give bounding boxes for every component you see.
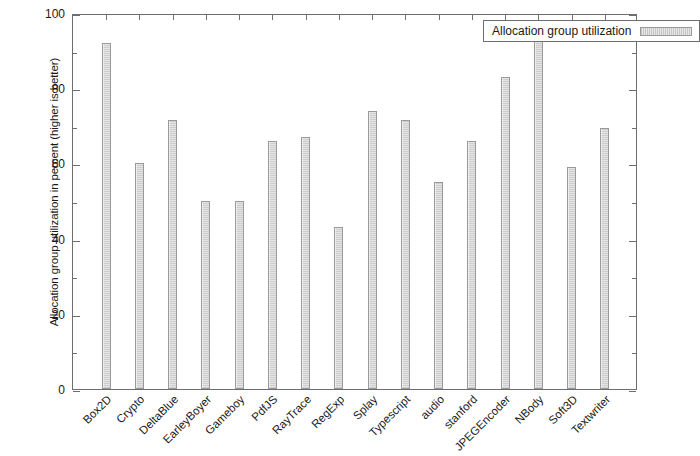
bar bbox=[534, 36, 543, 389]
x-tick-top bbox=[472, 15, 473, 20]
x-tick-top bbox=[405, 15, 406, 20]
y-tick-label: 100 bbox=[5, 7, 65, 21]
x-tick-top bbox=[272, 15, 273, 20]
y-tick-minor-right bbox=[632, 278, 636, 279]
y-tick-label: 80 bbox=[5, 82, 65, 96]
y-tick-major bbox=[73, 90, 80, 91]
y-tick-minor-right bbox=[632, 53, 636, 54]
bar bbox=[467, 141, 476, 389]
y-tick-major bbox=[73, 165, 80, 166]
bar bbox=[301, 137, 310, 389]
x-tick-top bbox=[206, 15, 207, 20]
bar bbox=[102, 43, 111, 389]
legend: Allocation group utilization bbox=[483, 20, 700, 42]
y-tick-minor bbox=[73, 53, 77, 54]
y-tick-major bbox=[73, 15, 80, 16]
bar bbox=[600, 128, 609, 389]
y-tick-minor-right bbox=[632, 203, 636, 204]
legend-swatch-icon bbox=[640, 27, 692, 36]
y-tick-major-right bbox=[629, 241, 636, 242]
y-tick-major bbox=[73, 316, 80, 317]
plot-area: Allocation group utilization bbox=[72, 14, 637, 390]
y-tick-minor-right bbox=[632, 128, 636, 129]
y-tick-minor bbox=[73, 278, 77, 279]
x-tick-top bbox=[339, 15, 340, 20]
bar bbox=[201, 201, 210, 389]
bar bbox=[235, 201, 244, 389]
bar bbox=[401, 120, 410, 389]
bar bbox=[334, 227, 343, 389]
x-tick-top bbox=[173, 15, 174, 20]
x-tick-top bbox=[139, 15, 140, 20]
bar bbox=[368, 111, 377, 389]
bar bbox=[434, 182, 443, 389]
y-tick-minor bbox=[73, 128, 77, 129]
y-tick-major-right bbox=[629, 391, 636, 392]
x-tick-top bbox=[372, 15, 373, 20]
y-tick-minor-right bbox=[632, 353, 636, 354]
y-tick-major-right bbox=[629, 90, 636, 91]
y-tick-label: 60 bbox=[5, 157, 65, 171]
bar bbox=[567, 167, 576, 389]
y-tick-major bbox=[73, 391, 80, 392]
y-tick-major bbox=[73, 241, 80, 242]
x-tick-top bbox=[239, 15, 240, 20]
x-tick-top bbox=[439, 15, 440, 20]
y-tick-major-right bbox=[629, 316, 636, 317]
y-tick-minor bbox=[73, 203, 77, 204]
y-tick-major-right bbox=[629, 165, 636, 166]
x-tick-top bbox=[106, 15, 107, 20]
legend-label: Allocation group utilization bbox=[492, 24, 631, 38]
y-tick-label: 40 bbox=[5, 233, 65, 247]
bar bbox=[268, 141, 277, 389]
y-tick-minor bbox=[73, 353, 77, 354]
y-tick-label: 0 bbox=[5, 383, 65, 397]
x-tick-top bbox=[306, 15, 307, 20]
bar bbox=[501, 77, 510, 389]
y-tick-major-right bbox=[629, 15, 636, 16]
bar bbox=[135, 163, 144, 389]
y-axis-title: Allocation group utilization in percent … bbox=[48, 2, 60, 382]
y-tick-label: 20 bbox=[5, 308, 65, 322]
bar bbox=[168, 120, 177, 389]
